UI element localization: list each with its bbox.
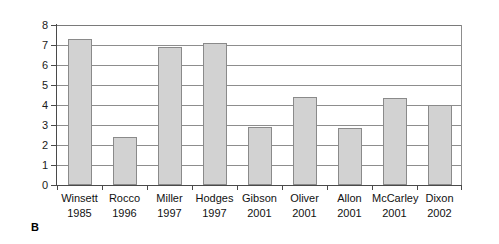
x-label-year: 2002 (417, 206, 462, 221)
x-tick-mark-9 (461, 185, 462, 190)
y-axis-tick-labels: 8 7 6 5 4 3 2 1 0 (0, 0, 48, 244)
y-tick-label-6: 6 (4, 60, 48, 71)
x-label-gibson: Gibson 2001 (237, 191, 282, 221)
y-axis-line (56, 24, 57, 186)
y-tick-label-2: 2 (4, 140, 48, 151)
panel-letter-b: B (31, 222, 39, 233)
x-label-name: Allon (337, 192, 361, 204)
x-label-miller: Miller 1997 (147, 191, 192, 221)
x-label-dixon: Dixon 2002 (417, 191, 462, 221)
bar-rocco-1996 (113, 137, 137, 185)
x-label-name: Oliver (290, 192, 319, 204)
x-label-year: 1985 (57, 206, 102, 221)
x-label-name: Rocco (109, 192, 140, 204)
x-label-winsett: Winsett 1985 (57, 191, 102, 221)
y-tick-label-7: 7 (4, 40, 48, 51)
x-label-year: 2001 (372, 206, 417, 221)
x-tick-mark-4 (237, 185, 238, 190)
x-label-name: Winsett (61, 192, 98, 204)
bar-miller-1997 (158, 47, 182, 185)
x-label-name: McCarley (372, 192, 418, 204)
x-label-oliver: Oliver 2001 (282, 191, 327, 221)
x-label-year: 1997 (147, 206, 192, 221)
bar-chart-figure: 8 7 6 5 4 3 2 1 0 (0, 0, 499, 244)
bar-gibson-2001 (248, 127, 272, 185)
x-label-year: 2001 (237, 206, 282, 221)
x-label-name: Gibson (242, 192, 277, 204)
x-tick-mark-5 (282, 185, 283, 190)
y-tick-label-8: 8 (4, 20, 48, 31)
x-label-year: 2001 (282, 206, 327, 221)
y-tick-label-5: 5 (4, 80, 48, 91)
bar-allon-2001 (338, 128, 362, 185)
x-label-name: Miller (156, 192, 182, 204)
x-tick-mark-1 (102, 185, 103, 190)
x-tick-mark-6 (327, 185, 328, 190)
bar-hodges-1997 (203, 43, 227, 185)
x-label-year: 2001 (327, 206, 372, 221)
bar-oliver-2001 (293, 97, 317, 185)
x-label-name: Hodges (196, 192, 234, 204)
x-label-year: 1997 (192, 206, 237, 221)
y-tick-label-3: 3 (4, 120, 48, 131)
y-tick-label-1: 1 (4, 160, 48, 171)
bar-winsett-1985 (68, 39, 92, 185)
x-label-mccarley: McCarley 2001 (372, 191, 417, 221)
x-tick-mark-2 (147, 185, 148, 190)
y-tick-label-4: 4 (4, 100, 48, 111)
x-tick-mark-0 (57, 185, 58, 190)
y-tick-label-0: 0 (4, 180, 48, 191)
bar-mccarley-2001 (383, 98, 407, 185)
x-tick-mark-7 (372, 185, 373, 190)
bar-dixon-2002 (428, 105, 452, 185)
x-label-hodges: Hodges 1997 (192, 191, 237, 221)
x-label-year: 1996 (102, 206, 147, 221)
x-label-allon: Allon 2001 (327, 191, 372, 221)
x-axis-tick-labels: Winsett 1985 Rocco 1996 Miller 1997 Hodg… (57, 191, 462, 231)
x-tick-mark-8 (417, 185, 418, 190)
x-tick-mark-3 (192, 185, 193, 190)
x-label-name: Dixon (425, 192, 453, 204)
bar-series (57, 25, 462, 185)
x-label-rocco: Rocco 1996 (102, 191, 147, 221)
